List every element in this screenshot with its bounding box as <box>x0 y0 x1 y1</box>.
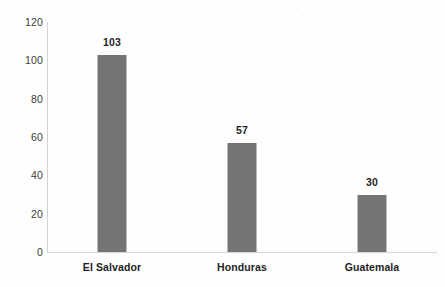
category-label: El Salvador <box>47 262 177 273</box>
y-axis-tick-labels: 020406080100120 <box>0 0 43 287</box>
x-axis-category-labels: El SalvadorHondurasGuatemala <box>47 0 437 287</box>
y-axis-tick-label: 60 <box>3 132 43 143</box>
bar-chart: 020406080100120 1035730 El SalvadorHondu… <box>0 0 445 287</box>
y-axis-tick-label: 40 <box>3 170 43 181</box>
y-axis-tick-label: 100 <box>3 55 43 66</box>
y-axis-tick-label: 20 <box>3 208 43 219</box>
y-axis-tick-label: 120 <box>3 17 43 28</box>
y-axis-tick-label: 0 <box>3 247 43 258</box>
y-axis-tick-label: 80 <box>3 93 43 104</box>
category-label: Guatemala <box>307 262 437 273</box>
category-label: Honduras <box>177 262 307 273</box>
